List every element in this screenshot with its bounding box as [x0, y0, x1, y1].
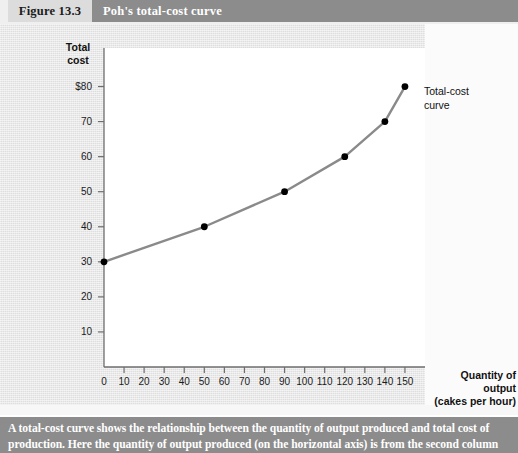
- figure-title-box: Poh's total-cost curve: [92, 0, 518, 22]
- y-tick-label: 60: [52, 151, 92, 162]
- curve-annotation-label: Total-cost curve: [424, 84, 504, 112]
- y-tick-label: 40: [52, 221, 92, 232]
- data-point: [201, 223, 208, 230]
- data-point: [381, 118, 388, 125]
- y-tick-marks: [98, 87, 104, 332]
- y-axis-title: Total cost: [55, 41, 101, 67]
- data-point: [101, 258, 108, 265]
- y-tick-label: 20: [52, 291, 92, 302]
- total-cost-curve-line: [104, 87, 405, 262]
- figure-number-label: Figure 13.3: [19, 4, 81, 19]
- y-tick-label: 30: [52, 256, 92, 267]
- figure-container: Figure 13.3 Poh's total-cost curve Total…: [0, 0, 518, 453]
- figure-caption-band: A total-cost curve shows the relationshi…: [0, 417, 518, 453]
- data-point: [402, 83, 409, 90]
- x-tick-marks: [124, 367, 405, 373]
- y-tick-label: 50: [52, 186, 92, 197]
- figure-number-box: Figure 13.3: [8, 0, 92, 22]
- data-point-group: [101, 83, 409, 265]
- figure-title-label: Poh's total-cost curve: [92, 4, 222, 19]
- data-point: [341, 153, 348, 160]
- y-tick-label: 70: [52, 116, 92, 127]
- data-point: [281, 188, 288, 195]
- x-axis-title: Quantity of output (cakes per hour): [428, 369, 516, 408]
- x-tick-label: 150: [392, 376, 418, 387]
- figure-caption-text: A total-cost curve shows the relationshi…: [0, 417, 518, 453]
- figure-header: Figure 13.3 Poh's total-cost curve: [0, 0, 518, 24]
- y-tick-label: $80: [52, 81, 92, 92]
- y-tick-label: 10: [52, 326, 92, 337]
- axis-group: [104, 48, 425, 367]
